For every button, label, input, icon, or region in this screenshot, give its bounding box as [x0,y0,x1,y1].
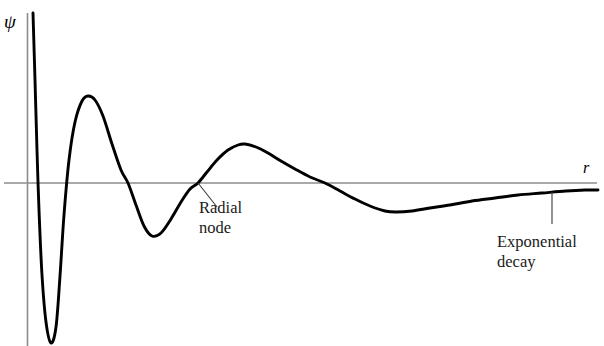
y-axis-label: ψ [4,12,16,31]
wavefunction-curve [33,13,598,343]
plot-canvas [0,0,604,346]
exponential-decay-annotation-line-1: Exponential [497,232,577,252]
radial-node-annotation-line-2: node [199,218,242,238]
exponential-decay-annotation: Exponential decay [497,232,577,272]
radial-node-annotation: Radial node [199,198,242,238]
radial-wavefunction-figure: ψ r Radial node Exponential decay [0,0,604,346]
exponential-decay-annotation-line-2: decay [497,252,577,272]
x-axis-label: r [583,160,589,176]
radial-node-annotation-line-1: Radial [199,198,242,218]
